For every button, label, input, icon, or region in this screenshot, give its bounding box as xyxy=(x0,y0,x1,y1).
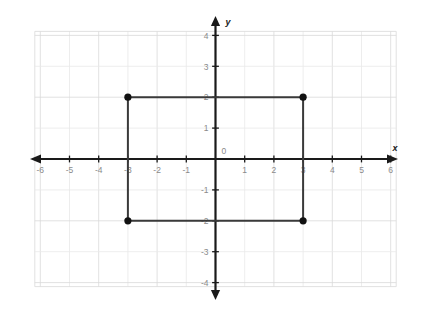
graph-svg: -6-5-4-3-2-11234564321-1-2-3-40 xy xyxy=(0,0,423,313)
vertex-point xyxy=(124,217,131,224)
vertex-point xyxy=(300,94,307,101)
x-tick-label: 2 xyxy=(272,165,277,175)
coordinate-plane-graph: -6-5-4-3-2-11234564321-1-2-3-40 xy xyxy=(0,0,423,313)
vertex-point xyxy=(124,94,131,101)
y-axis-arrow-up xyxy=(211,16,220,26)
x-tick-label: 6 xyxy=(388,165,393,175)
y-tick-label: 4 xyxy=(204,31,209,41)
x-tick-label: 5 xyxy=(359,165,364,175)
vertex-point xyxy=(300,217,307,224)
x-axis-label: x xyxy=(391,143,398,153)
x-tick-label: -2 xyxy=(153,165,161,175)
x-tick-label: -6 xyxy=(37,165,45,175)
y-tick-label: -3 xyxy=(201,247,209,257)
x-tick-label: -4 xyxy=(95,165,103,175)
y-axis-label: y xyxy=(225,17,232,27)
x-axis-arrow-left xyxy=(30,154,41,163)
y-tick-label: -4 xyxy=(201,278,209,288)
y-axis-arrow-down xyxy=(211,290,220,300)
origin-label: 0 xyxy=(222,146,227,156)
y-tick-label: -1 xyxy=(201,185,209,195)
axis-name-labels: xy xyxy=(225,17,399,153)
x-tick-label: 4 xyxy=(330,165,335,175)
x-tick-label: 1 xyxy=(242,165,247,175)
x-tick-label: -5 xyxy=(66,165,74,175)
y-tick-label: 1 xyxy=(204,123,209,133)
x-tick-label: -1 xyxy=(183,165,191,175)
axes xyxy=(30,16,398,300)
y-tick-label: 3 xyxy=(204,62,209,72)
